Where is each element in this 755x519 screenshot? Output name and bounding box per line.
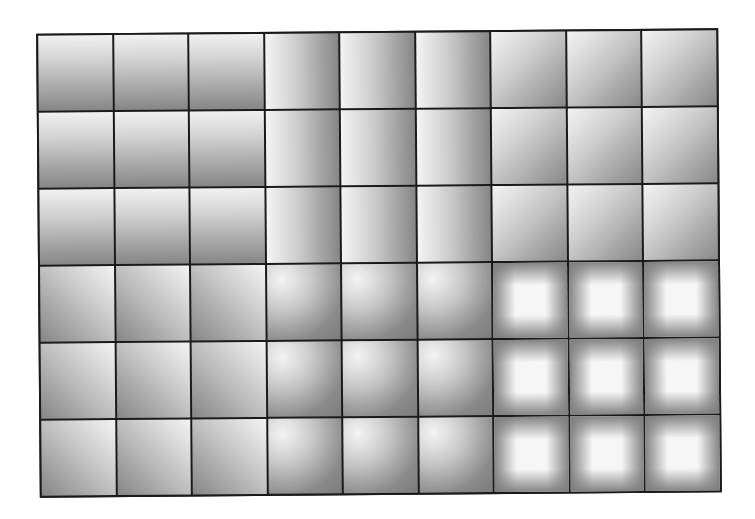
gradient-cell-linear-vertical [115, 188, 189, 264]
gradient-cell-radial-corner [419, 417, 493, 493]
gradient-cell-rectangular-center [570, 416, 644, 492]
gradient-cell-linear-horizontal [416, 32, 490, 108]
gradient-cell-rectangular-center [493, 263, 567, 339]
gradient-cell-radial-corner [343, 341, 417, 417]
gradient-cell-linear-diagonal-reverse [41, 343, 115, 419]
gradient-cell-linear-diagonal [643, 107, 717, 183]
gradient-cell-linear-diagonal [492, 32, 566, 108]
gradient-cell-linear-horizontal [265, 110, 339, 186]
gradient-cell-linear-vertical [191, 188, 265, 264]
gradient-cell-rectangular-center [495, 417, 569, 493]
gradient-cell-linear-diagonal [643, 30, 717, 106]
gradient-cell-linear-vertical [39, 189, 113, 265]
gradient-cell-rectangular-center [645, 338, 719, 414]
gradient-cell-radial-corner [267, 341, 341, 417]
gradient-cell-linear-vertical [39, 112, 113, 188]
gradient-cell-linear-vertical [114, 34, 188, 110]
gradient-cell-rectangular-center [646, 415, 720, 491]
gradient-cell-linear-diagonal-reverse [192, 342, 266, 418]
gradient-cell-radial-corner [418, 340, 492, 416]
gradient-cell-linear-diagonal-reverse [41, 420, 115, 496]
gradient-cell-linear-vertical [38, 35, 112, 111]
gradient-cell-linear-diagonal-reverse [116, 342, 190, 418]
gradient-cell-linear-horizontal [266, 187, 340, 263]
gradient-cell-linear-horizontal [341, 110, 415, 186]
gradient-cell-linear-diagonal [644, 184, 718, 260]
gradient-cell-radial-corner [268, 418, 342, 494]
gradient-cell-linear-vertical [189, 34, 263, 110]
gradient-cell-linear-diagonal [492, 109, 566, 185]
gradient-cell-radial-corner [342, 264, 416, 340]
gradient-cell-linear-diagonal [493, 186, 567, 262]
gradient-cell-radial-corner [343, 418, 417, 494]
gradient-sample-grid [36, 28, 722, 497]
gradient-cell-linear-diagonal [567, 31, 641, 107]
gradient-cell-linear-diagonal-reverse [192, 419, 266, 495]
gradient-cell-linear-vertical [114, 111, 188, 187]
gradient-cell-linear-diagonal [568, 185, 642, 261]
gradient-cell-linear-diagonal-reverse [117, 419, 191, 495]
gradient-cell-linear-diagonal [568, 108, 642, 184]
gradient-cell-radial-corner [267, 264, 341, 340]
gradient-cell-linear-diagonal-reverse [191, 265, 265, 341]
gradient-cell-radial-corner [418, 263, 492, 339]
gradient-cell-linear-horizontal [265, 33, 339, 109]
gradient-cell-rectangular-center [569, 339, 643, 415]
gradient-cell-linear-diagonal-reverse [40, 266, 114, 342]
gradient-cell-rectangular-center [569, 262, 643, 338]
gradient-cell-linear-horizontal [417, 109, 491, 185]
gradient-cell-linear-horizontal [340, 33, 414, 109]
gradient-cell-linear-horizontal [417, 186, 491, 262]
gradient-cell-rectangular-center [644, 261, 718, 337]
gradient-cell-linear-vertical [190, 111, 264, 187]
gradient-cell-linear-diagonal-reverse [116, 265, 190, 341]
gradient-cell-linear-horizontal [342, 187, 416, 263]
gradient-cell-rectangular-center [494, 340, 568, 416]
